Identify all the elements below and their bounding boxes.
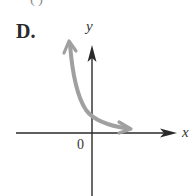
x-axis [16,129,177,138]
origin-label: 0 [77,137,84,153]
x-axis-label: x [182,124,189,141]
graph [0,0,194,196]
exponential-curve [64,41,131,133]
y-axis-label: y [86,18,93,35]
